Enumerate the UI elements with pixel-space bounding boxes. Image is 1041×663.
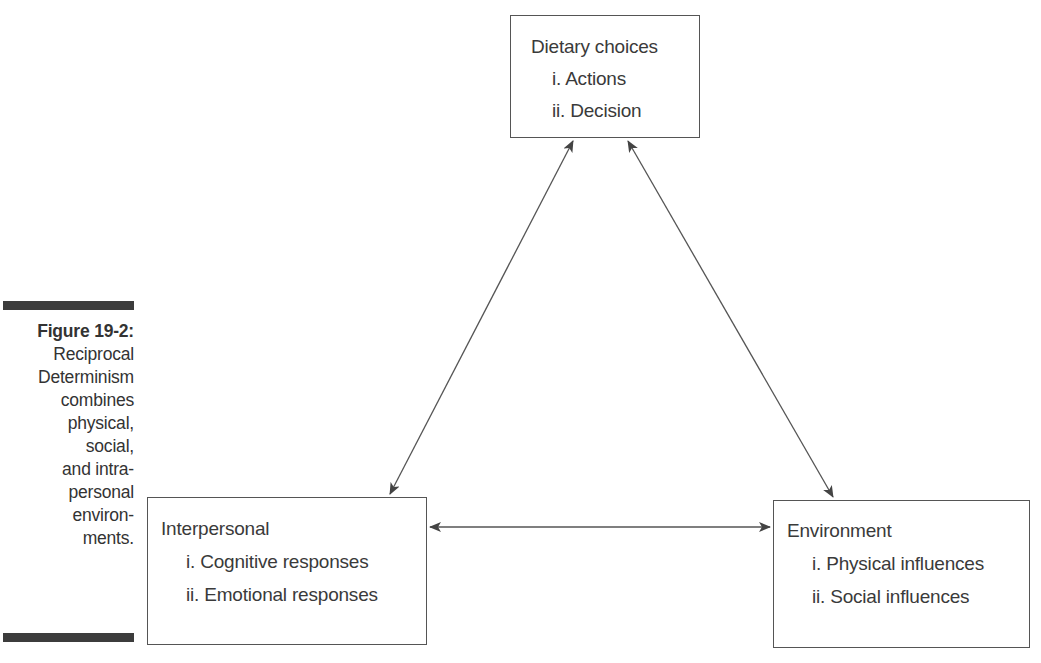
node-item: ii. Decision <box>552 100 641 122</box>
node-title: Environment <box>787 520 891 542</box>
node-title: Interpersonal <box>161 518 269 540</box>
node-environment: Environment i. Physical influences ii. S… <box>773 500 1030 648</box>
node-item: ii. Social influences <box>812 586 969 608</box>
node-item: i. Physical influences <box>812 553 984 575</box>
arrow-dietary-environment <box>628 141 833 497</box>
node-item: i. Cognitive responses <box>186 551 369 573</box>
node-item: ii. Emotional responses <box>186 584 378 606</box>
arrow-dietary-interpersonal <box>390 141 573 494</box>
node-dietary-choices: Dietary choices i. Actions ii. Decision <box>510 15 700 138</box>
node-interpersonal: Interpersonal i. Cognitive responses ii.… <box>147 497 427 645</box>
node-item: i. Actions <box>552 68 626 90</box>
node-title: Dietary choices <box>531 36 658 58</box>
